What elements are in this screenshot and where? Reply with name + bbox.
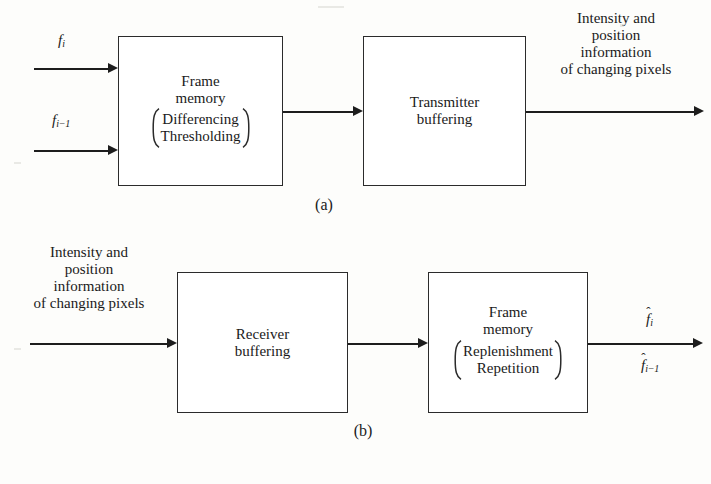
bracketed-options-group: Differencing Thresholding: [121, 107, 280, 149]
output-subscript: i−1: [645, 363, 659, 374]
scan-artifact: [620, 24, 624, 27]
bracket-line-1: Replenishment: [463, 343, 553, 360]
panel-b-caption: (b): [343, 422, 383, 440]
block-transmitter-buffering[interactable]: Transmitter buffering: [363, 36, 526, 186]
input-subscript: i−1: [56, 118, 70, 129]
block-title-line-2: buffering: [366, 111, 523, 128]
input-label-line-3: information: [0, 278, 180, 295]
input-label-line-1: Intensity and: [0, 244, 180, 261]
block-title-line-2: memory: [121, 90, 280, 107]
hat-accent-icon: ˆ: [646, 305, 650, 318]
input-label-line-2: position: [0, 261, 180, 278]
block-title-line-1: Transmitter: [366, 94, 523, 111]
block-receiver-buffering[interactable]: Receiver buffering: [177, 272, 348, 413]
block-frame-memory-tx[interactable]: Frame memory Differencing Thresholding: [118, 36, 283, 186]
panel-b-input-label: Intensity and position information of ch…: [0, 244, 180, 312]
bracket-line-2: Thresholding: [161, 128, 241, 145]
right-bracket-icon: [242, 107, 251, 149]
block-title-line-1: Frame: [431, 304, 585, 321]
bracket-line-2: Repetition: [463, 360, 553, 377]
output-label-line-2: position: [521, 27, 711, 44]
scan-artifact: [14, 162, 21, 164]
left-bracket-icon: [151, 107, 160, 149]
figure-canvas: fi fi−1 Frame memory: [0, 0, 711, 484]
output-subscript: i: [650, 317, 653, 328]
input-subscript: i: [62, 38, 65, 49]
scan-artifact: [14, 348, 21, 350]
hat-accent-icon: ˆ: [641, 351, 645, 364]
input-label-line-4: of changing pixels: [0, 295, 180, 312]
left-bracket-icon: [453, 339, 462, 381]
block-title-line-1: Receiver: [180, 326, 345, 343]
output-label-f-hat-i-minus-1: ˆ fi−1: [641, 357, 659, 374]
panel-a-output-label: Intensity and position information of ch…: [521, 10, 711, 78]
output-label-line-4: of changing pixels: [521, 61, 711, 78]
output-label-f-hat-i: ˆ fi: [646, 311, 653, 328]
input-label-f-i-minus-1: fi−1: [52, 112, 70, 129]
block-title-line-2: memory: [431, 321, 585, 338]
scan-artifact: [318, 6, 344, 8]
bracketed-options-group: Replenishment Repetition: [431, 339, 585, 381]
block-title-line-2: buffering: [180, 343, 345, 360]
panel-a-caption: (a): [304, 196, 344, 214]
block-title-line-1: Frame: [121, 73, 280, 90]
panel-b: Intensity and position information of ch…: [0, 225, 711, 484]
input-label-f-i: fi: [58, 32, 65, 49]
panel-a: fi fi−1 Frame memory: [0, 0, 711, 225]
block-frame-memory-rx[interactable]: Frame memory Replenishment Repetition: [428, 272, 588, 413]
right-bracket-icon: [554, 339, 563, 381]
output-label-line-1: Intensity and: [521, 10, 711, 27]
bracket-line-1: Differencing: [161, 111, 241, 128]
output-label-line-3: information: [521, 44, 711, 61]
